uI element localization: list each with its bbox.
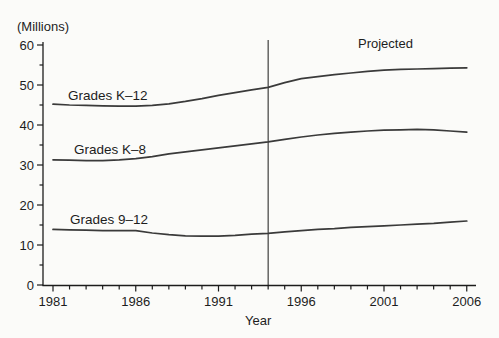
x-tick-label-1986: 1986 (121, 294, 150, 309)
y-tick-label-40: 40 (20, 118, 34, 133)
y-tick-label-60: 60 (20, 38, 34, 53)
x-tick-label-1996: 1996 (287, 294, 316, 309)
series-label-grades-k-8: Grades K–8 (74, 142, 146, 157)
x-tick-label-2006: 2006 (452, 294, 481, 309)
series-label-grades-k-12: Grades K–12 (68, 88, 148, 103)
y-axis-unit-label: (Millions) (17, 20, 69, 33)
series-label-grades-9-12: Grades 9–12 (70, 212, 148, 227)
y-tick-label-20: 20 (20, 198, 34, 213)
figure: Grades K–12Grades K–8Grades 9–1201020304… (0, 0, 499, 338)
y-tick-label-0: 0 (27, 278, 34, 293)
projected-region-label: Projected (358, 37, 413, 50)
y-tick-label-30: 30 (20, 158, 34, 173)
y-tick-label-50: 50 (20, 78, 34, 93)
y-tick-label-10: 10 (20, 238, 34, 253)
x-tick-label-2001: 2001 (370, 294, 399, 309)
x-tick-label-1981: 1981 (39, 294, 68, 309)
chart-canvas: Grades K–12Grades K–8Grades 9–1201020304… (0, 0, 499, 338)
x-axis-title: Year (245, 314, 271, 327)
x-tick-label-1991: 1991 (204, 294, 233, 309)
